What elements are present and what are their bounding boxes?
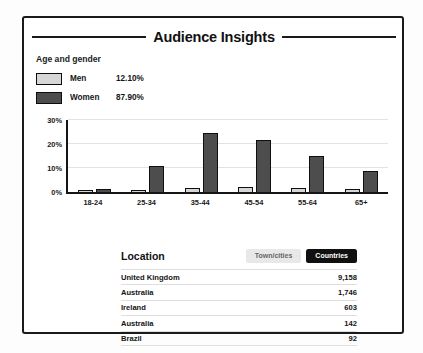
bar-women-25-34 [149,166,164,192]
bar-men-45-54 [238,187,253,192]
x-axis-tick-label: 45-54 [227,198,281,212]
location-count: 603 [344,303,357,312]
location-name: Brazil [121,334,349,343]
bar-men-35-44 [185,188,200,192]
legend-item-men: Men 12.10% [36,72,144,85]
bar-women-55-64 [309,156,324,192]
chart-bars [68,120,388,192]
card-title-row: Audience Insights [32,26,396,48]
screenshot-canvas: Audience Insights Age and gender Men 12.… [0,0,423,353]
legend-swatch-women [36,92,62,104]
legend-swatch-men [36,73,62,85]
x-axis-tick-label: 65+ [334,198,388,212]
chart-x-axis: 18-2425-3435-4445-5455-6465+ [66,198,388,212]
location-title: Location [121,250,246,262]
x-axis-tick-label: 25-34 [120,198,174,212]
x-axis-tick-label: 18-24 [66,198,120,212]
x-axis-tick-label: 55-64 [281,198,335,212]
toggle-town-cities[interactable]: Town/cities [246,249,302,263]
location-count: 142 [344,319,357,328]
table-row[interactable]: United Kingdom9,158 [121,269,357,284]
location-count: 92 [349,334,357,343]
age-gender-heading: Age and gender [36,54,101,64]
location-name: Ireland [121,303,344,312]
bar-group [335,120,388,192]
bar-men-25-34 [131,190,146,192]
y-axis-tick-label: 20% [34,140,62,149]
bar-group [121,120,174,192]
location-section: Location Town/cities Countries United Ki… [121,246,357,346]
legend-label-women: Women [70,93,116,102]
location-name: Australia [121,288,338,297]
title-rule-right [282,36,396,38]
bar-men-65+ [345,189,360,192]
chart-plot-area [66,120,388,194]
bar-women-18-24 [96,189,111,192]
toggle-countries[interactable]: Countries [306,249,357,263]
y-axis-tick-label: 0% [34,188,62,197]
legend-item-women: Women 87.90% [36,91,144,104]
table-row[interactable]: Australia142 [121,315,357,330]
bar-group [228,120,281,192]
bar-women-35-44 [203,133,218,192]
legend-value-women: 87.90% [116,93,144,102]
location-name: Australia [121,319,344,328]
y-axis-tick-label: 10% [34,164,62,173]
bar-women-45-54 [256,140,271,192]
title-rule-left [32,36,146,38]
bar-group [281,120,334,192]
audience-insights-card: Audience Insights Age and gender Men 12.… [22,16,404,334]
location-header: Location Town/cities Countries [121,246,357,266]
page-title: Audience Insights [153,29,274,45]
y-axis-tick-label: 30% [34,116,62,125]
location-table: United Kingdom9,158Australia1,746Ireland… [121,269,357,346]
table-row[interactable]: Australia1,746 [121,284,357,299]
age-gender-bar-chart: 0%10%20%30% 18-2425-3435-4445-5455-6465+ [34,114,396,214]
table-row[interactable]: Ireland603 [121,300,357,315]
x-axis-tick-label: 35-44 [173,198,227,212]
location-count: 1,746 [338,288,357,297]
bar-group [68,120,121,192]
location-name: United Kingdom [121,273,338,282]
location-count: 9,158 [338,273,357,282]
legend-label-men: Men [70,74,116,83]
bar-group [175,120,228,192]
bar-men-55-64 [291,188,306,192]
table-row[interactable]: Brazil92 [121,331,357,346]
bar-women-65+ [363,171,378,192]
legend-value-men: 12.10% [116,74,144,83]
bar-men-18-24 [78,190,93,192]
